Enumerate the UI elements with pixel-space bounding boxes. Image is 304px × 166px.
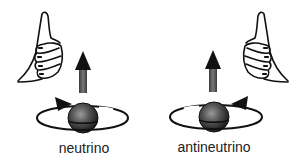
spin-direction-arrow-icon <box>55 97 72 111</box>
right-hand-thumbs-up-icon <box>18 12 62 82</box>
particle-sphere <box>199 102 229 132</box>
left-hand-thumbs-up-icon <box>244 12 288 82</box>
momentum-arrow-up-icon <box>75 51 91 93</box>
diagram-canvas <box>0 0 304 166</box>
particle-sphere <box>68 103 98 133</box>
spin-direction-arrow-icon <box>231 96 248 110</box>
antineutrino-label: antineutrino <box>177 139 250 155</box>
momentum-arrow-up-icon <box>205 50 221 92</box>
helicity-diagram: neutrino antineutrino <box>0 0 304 166</box>
neutrino-label: neutrino <box>59 140 110 156</box>
neutrino-panel <box>18 12 128 133</box>
antineutrino-panel <box>170 12 288 132</box>
